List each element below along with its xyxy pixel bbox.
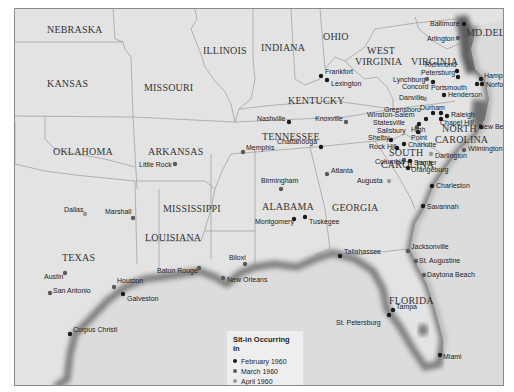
- legend-dot-icon: [233, 369, 237, 373]
- city-dot-icon: [439, 111, 443, 115]
- city-dot-icon: [387, 313, 391, 317]
- city-label: Durham: [420, 104, 445, 111]
- city-marker: Baton Rouge: [157, 266, 201, 275]
- city-label: Richmond: [425, 61, 457, 68]
- city-label: Dallas: [64, 206, 84, 213]
- city-dot-icon: [422, 273, 426, 277]
- city-marker: Rock Hill: [369, 143, 399, 150]
- city-label: New Bern: [479, 123, 504, 130]
- city-dot-icon: [479, 77, 483, 81]
- city-label: Daytona Beach: [427, 271, 475, 279]
- state-label: ARKANSAS: [148, 146, 204, 157]
- city-marker: New Orleans: [221, 276, 268, 283]
- state-label: OHIO: [323, 31, 349, 42]
- legend-label: March 1960: [241, 368, 278, 375]
- city-label: Raleigh: [451, 111, 475, 119]
- state-label: MISSISSIPPI: [163, 203, 221, 214]
- city-dot-icon: [389, 138, 393, 142]
- city-dot-icon: [475, 82, 479, 86]
- lake-okeechobee: [418, 324, 428, 336]
- city-dot-icon: [279, 187, 283, 191]
- legend-label: February 1960: [241, 358, 287, 365]
- city-label: Knoxville: [315, 115, 343, 122]
- sit-in-map: NEBRASKAKANSASMISSOURIILLINOISINDIANAOHI…: [14, 8, 504, 386]
- city-label: Galveston: [127, 295, 159, 302]
- state-label: MISSOURI: [144, 82, 193, 93]
- state-label: MD.: [466, 27, 485, 38]
- city-marker: Wilmington: [462, 145, 503, 153]
- city-label: Baltimore: [430, 20, 460, 27]
- city-label: San Antonio: [53, 287, 91, 294]
- city-label: Little Rock: [139, 161, 172, 168]
- city-label: Chattanooga: [277, 138, 317, 146]
- city-label: Nashville: [257, 115, 286, 122]
- city-dot-icon: [442, 93, 446, 97]
- city-dot-icon: [391, 308, 395, 312]
- legend-item-march: March 1960: [233, 366, 297, 376]
- state-label: KENTUCKY: [288, 95, 345, 106]
- city-dot-icon: [438, 353, 442, 357]
- city-label: Houston: [117, 277, 143, 284]
- city-dot-icon: [456, 75, 460, 79]
- city-dot-icon: [425, 77, 429, 81]
- state-label: DEL.: [485, 27, 504, 38]
- city-dot-icon: [421, 204, 425, 208]
- city-label: Orangeburg: [411, 166, 448, 174]
- city-dot-icon: [319, 145, 323, 149]
- city-marker: Lexington: [325, 78, 362, 88]
- city-label: Baton Rouge: [157, 267, 198, 275]
- city-dot-icon: [303, 215, 307, 219]
- state-label: WEST: [367, 45, 395, 56]
- state-label: GEORGIA: [332, 202, 379, 213]
- city-marker: Montgomery: [255, 217, 296, 226]
- city-label: Portsmouth: [431, 84, 467, 91]
- city-dot-icon: [173, 162, 177, 166]
- city-label: Winston-Salem: [367, 111, 415, 118]
- state-label: CAROLINA: [435, 134, 489, 145]
- city-marker: Chapel Hill: [439, 117, 474, 127]
- city-label: Birmingham: [261, 177, 299, 185]
- city-label: Chapel Hill: [440, 119, 474, 127]
- city-label: Columbia: [375, 158, 405, 165]
- city-dot-icon: [112, 285, 116, 289]
- city-label: Austin: [44, 273, 64, 280]
- city-marker: Point: [411, 134, 427, 141]
- city-marker: Galveston: [121, 292, 159, 302]
- city-label: Henderson: [448, 91, 482, 98]
- city-dot-icon: [406, 166, 410, 170]
- city-label: High: [411, 126, 426, 134]
- state-label: LOUISIANA: [145, 232, 202, 243]
- city-label: Tallahassee: [344, 248, 381, 255]
- city-dot-icon: [241, 150, 245, 154]
- city-label: Savannah: [427, 203, 459, 210]
- state-label: TEXAS: [62, 252, 95, 263]
- city-dot-icon: [243, 262, 247, 266]
- city-dot-icon: [455, 69, 459, 73]
- city-dot-icon: [319, 74, 323, 78]
- city-label: Rock Hill: [369, 143, 397, 150]
- city-dot-icon: [408, 159, 412, 163]
- city-label: Jacksonville: [411, 243, 449, 250]
- city-dot-icon: [325, 78, 329, 82]
- city-label: Miami: [443, 353, 462, 360]
- city-label: Danville: [399, 94, 424, 101]
- legend-dot-icon: [233, 379, 237, 383]
- legend: Sit-in Occurring in February 1960 March …: [227, 331, 303, 386]
- city-label: Petersburg: [421, 69, 455, 77]
- city-dot-icon: [480, 82, 484, 86]
- city-dot-icon: [406, 249, 410, 253]
- city-label: Biloxi: [229, 254, 246, 261]
- city-dot-icon: [221, 276, 225, 280]
- city-label: Frankfort: [325, 68, 353, 75]
- city-label: Arlington: [427, 35, 455, 43]
- city-label: St. Augustine: [419, 257, 460, 265]
- city-label: Montgomery: [255, 218, 294, 226]
- city-dot-icon: [287, 120, 291, 124]
- city-label: Memphis: [246, 144, 275, 152]
- city-dot-icon: [430, 184, 434, 188]
- city-marker: Orangeburg: [406, 166, 449, 174]
- city-dot-icon: [131, 216, 135, 220]
- city-dot-icon: [414, 259, 418, 263]
- legend-item-february: February 1960: [233, 356, 297, 366]
- state-label: VIRGINIA: [355, 56, 403, 67]
